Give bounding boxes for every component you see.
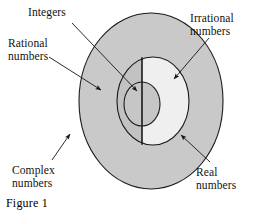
- label-complex-numbers: Complex numbers: [12, 164, 55, 189]
- figure-container: Integers Rational numbers Irrational num…: [0, 0, 277, 217]
- label-integers: Integers: [28, 6, 66, 19]
- figure-caption: Figure 1: [6, 196, 48, 211]
- arrow-complex: [52, 134, 70, 160]
- label-irrational-numbers: Irrational numbers: [190, 12, 234, 37]
- label-rational-numbers: Rational numbers: [8, 37, 48, 62]
- label-real-numbers: Real numbers: [196, 166, 236, 191]
